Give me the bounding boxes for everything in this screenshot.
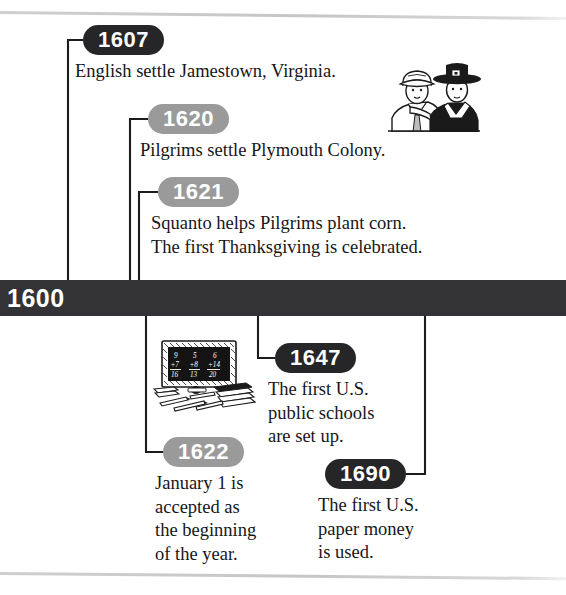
timeline-page: 1607 English settle Jamestown, Virginia. — [0, 0, 566, 595]
event-text-1621: Squanto helps Pilgrims plant corn. The f… — [151, 212, 511, 259]
year-badge-1607-label: 1607 — [98, 29, 149, 51]
event-text-1647: The first U.S. public schools are set up… — [268, 378, 418, 449]
year-badge-1622[interactable]: 1622 — [163, 437, 244, 467]
year-badge-1647-label: 1647 — [290, 347, 341, 369]
event-text-1607: English settle Jamestown, Virginia. — [75, 60, 415, 84]
year-badge-1621-label: 1621 — [173, 181, 224, 203]
era-bar-label: 1600 — [7, 286, 65, 311]
page-rule-top — [0, 11, 566, 20]
year-badge-1607[interactable]: 1607 — [83, 25, 164, 55]
svg-text:20: 20 — [209, 371, 217, 379]
svg-text:9: 9 — [174, 352, 178, 360]
event-text-1690: The first U.S. paper money is used. — [318, 494, 478, 565]
year-badge-1622-label: 1622 — [178, 441, 229, 463]
year-badge-1690[interactable]: 1690 — [325, 459, 406, 489]
year-badge-1647[interactable]: 1647 — [275, 343, 356, 373]
year-badge-1620-label: 1620 — [163, 108, 214, 130]
svg-text:+14: +14 — [208, 361, 220, 369]
svg-text:16: 16 — [171, 371, 179, 379]
year-badge-1621[interactable]: 1621 — [158, 177, 239, 207]
event-text-1622: January 1 is accepted as the beginning o… — [155, 472, 305, 567]
era-bar: 1600 — [0, 280, 566, 316]
year-badge-1690-label: 1690 — [340, 463, 391, 485]
svg-text:+7: +7 — [171, 361, 180, 369]
schoolroom-chalkboard-illustration: 9 +7 16 5 +8 13 6 +14 20 — [152, 337, 256, 413]
event-text-1620: Pilgrims settle Plymouth Colony. — [140, 139, 470, 163]
year-badge-1620[interactable]: 1620 — [148, 104, 229, 134]
svg-text:13: 13 — [190, 371, 198, 379]
svg-text:+8: +8 — [190, 361, 199, 369]
page-rule-bottom — [0, 572, 566, 580]
svg-text:5: 5 — [193, 352, 197, 360]
svg-text:6: 6 — [213, 352, 217, 360]
